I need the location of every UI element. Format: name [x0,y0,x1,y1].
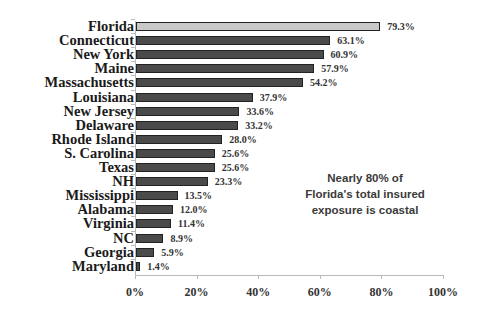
x-tick [135,275,136,279]
y-tick [131,259,135,260]
category-label: Connecticut [59,33,134,47]
category-label: Virginia [83,216,134,230]
y-tick [131,75,135,76]
bar [136,163,215,172]
y-tick [131,146,135,147]
x-tick [381,275,382,279]
y-tick [131,47,135,48]
category-label: Massachusetts [45,75,134,89]
value-label: 23.3% [215,176,243,188]
value-label: 28.0% [229,134,257,146]
x-tick-label: 60% [308,285,332,300]
x-tick-label: 100% [428,285,458,300]
value-label: 54.2% [310,77,338,89]
y-tick [131,245,135,246]
y-tick [131,118,135,119]
bar [136,219,171,228]
bar [136,234,163,243]
value-label: 13.5% [185,190,213,202]
category-label: Louisiana [73,90,134,104]
value-label: 33.2% [245,120,273,132]
bar [136,135,222,144]
value-label: 37.9% [260,92,288,104]
category-label: S. Carolina [64,146,134,160]
category-label: Maine [95,61,134,75]
category-label: Maryland [72,259,134,273]
bar [136,191,178,200]
annotation-line: Nearly 80% of [300,170,430,186]
category-label: NH [112,174,134,188]
bar [136,205,173,214]
y-tick [131,90,135,91]
category-label: New Jersey [64,104,134,118]
category-label: Georgia [84,245,134,259]
category-label: Florida [88,19,134,33]
value-label: 25.6% [222,148,250,160]
bar [136,149,215,158]
x-tick-label: 40% [246,285,270,300]
category-label: Texas [99,160,134,174]
category-label: Rhode Island [51,132,134,146]
value-label: 1.4% [147,261,170,273]
bar [136,64,314,73]
x-tick [320,275,321,279]
x-tick [443,275,444,279]
value-label: 8.9% [170,233,193,245]
y-tick [131,231,135,232]
value-label: 12.0% [180,204,208,216]
y-tick [131,132,135,133]
value-label: 60.9% [331,49,359,61]
bar [136,93,253,102]
y-tick [131,188,135,189]
y-tick [131,202,135,203]
y-tick [131,104,135,105]
bar-chart: Nearly 80% of Florida's total insured ex… [0,0,490,316]
x-tick-label: 0% [126,285,144,300]
x-tick [258,275,259,279]
y-tick [131,61,135,62]
bar [136,177,208,186]
annotation-line: exposure is coastal [300,202,430,218]
x-tick-label: 80% [369,285,393,300]
x-axis [135,275,444,276]
y-tick [131,160,135,161]
bar [136,78,303,87]
x-tick-label: 20% [185,285,209,300]
value-label: 5.9% [161,247,184,259]
bar [136,50,324,59]
value-label: 79.3% [387,21,415,33]
value-label: 25.6% [222,162,250,174]
value-label: 11.4% [178,218,205,230]
category-label: Delaware [75,118,134,132]
x-tick [197,275,198,279]
bar [136,22,380,31]
value-label: 57.9% [321,63,349,75]
y-tick [131,216,135,217]
bar [136,262,140,271]
bar [136,248,154,257]
bar [136,36,330,45]
category-label: Alabama [78,202,134,216]
category-label: New York [73,47,134,61]
bar [136,121,238,130]
bar [136,107,239,116]
value-label: 63.1% [337,35,365,47]
category-label: Mississippi [66,188,135,202]
chart-annotation: Nearly 80% of Florida's total insured ex… [300,170,430,218]
y-tick [131,33,135,34]
value-label: 33.6% [246,106,274,118]
y-tick [131,174,135,175]
annotation-line: Florida's total insured [300,186,430,202]
y-tick [131,19,135,20]
category-label: NC [113,231,134,245]
